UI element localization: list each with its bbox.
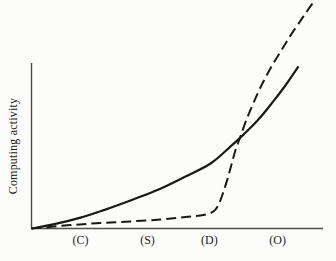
x-tick-label: (C): [73, 233, 89, 247]
y-axis-label: Computing activity: [6, 98, 20, 195]
solid-curve: [32, 66, 299, 228]
dashed-curve: [32, 4, 313, 229]
chart-figure: (C)(S)(D)(O) Computing activity: [0, 0, 336, 261]
x-tick-labels-group: (C)(S)(D)(O): [73, 233, 286, 247]
curves-group: [32, 4, 313, 229]
x-tick-label: (D): [201, 233, 218, 247]
x-tick-label: (O): [269, 233, 286, 247]
x-tick-label: (S): [140, 233, 155, 247]
chart-canvas: (C)(S)(D)(O) Computing activity: [0, 0, 336, 261]
